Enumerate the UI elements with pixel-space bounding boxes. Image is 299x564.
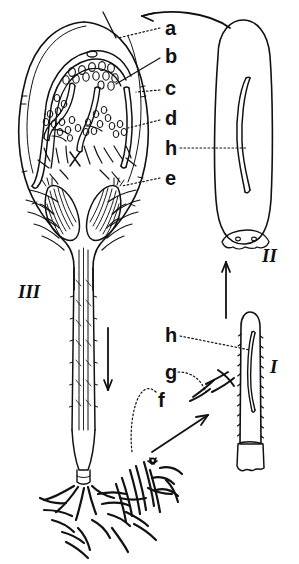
figure-plate: a b c d h e h g f III II I <box>0 0 299 564</box>
part-g-filaments <box>190 370 234 401</box>
structure-three-ovary <box>19 22 149 484</box>
node-f <box>148 458 157 464</box>
label-h-lower: h <box>165 325 177 345</box>
stage-three-down-arrow <box>104 328 112 390</box>
label-c: c <box>165 78 176 98</box>
figure-linework <box>0 0 299 564</box>
part-a-arch <box>32 51 131 188</box>
label-d: d <box>165 108 177 128</box>
structure-two-seed <box>215 20 273 249</box>
label-a: a <box>165 18 176 38</box>
receptacle-hairs <box>26 190 140 250</box>
mid-septa <box>44 83 102 152</box>
label-g: g <box>165 362 177 382</box>
stage-label-one: I <box>270 357 277 376</box>
structure-one-fruit <box>237 312 264 471</box>
stage-label-two: II <box>262 246 277 265</box>
stage-label-three: III <box>18 282 40 301</box>
style-stalk <box>69 248 97 484</box>
root-hair-mass <box>40 462 182 558</box>
stage-one-to-two-arrow <box>222 262 230 318</box>
label-h-upper: h <box>165 138 177 158</box>
germination-arrow <box>152 415 208 452</box>
label-e: e <box>165 168 176 188</box>
label-f: f <box>158 390 165 410</box>
part-b-ovules <box>63 62 118 91</box>
leader-line-a-solid <box>103 12 116 38</box>
part-e-seeds <box>42 178 124 240</box>
stage-two-to-three-arrow <box>142 12 230 28</box>
embryo-curve-h <box>237 77 250 193</box>
label-b: b <box>165 46 177 66</box>
